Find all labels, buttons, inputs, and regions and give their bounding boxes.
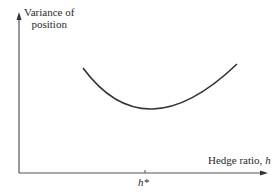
y-axis-arrow-icon <box>17 12 22 20</box>
y-axis <box>17 12 22 173</box>
x-axis-label-text: Hedge ratio, <box>208 154 265 166</box>
x-axis-label-var: h <box>265 154 271 166</box>
x-axis <box>19 171 268 176</box>
h-star-label: h* <box>138 176 149 188</box>
y-axis-label-line2: position <box>24 18 74 30</box>
x-axis-arrow-icon <box>260 171 268 176</box>
y-axis-label: Variance of position <box>24 6 74 30</box>
variance-curve <box>83 64 237 109</box>
x-axis-label: Hedge ratio, h <box>208 154 271 166</box>
y-axis-label-line1: Variance of <box>24 6 74 18</box>
